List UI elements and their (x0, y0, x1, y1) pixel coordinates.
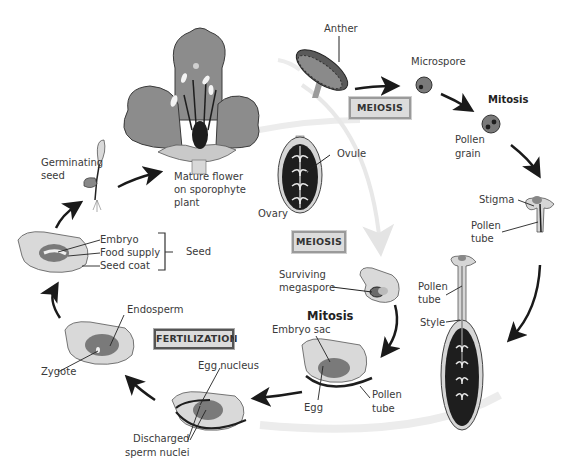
egg-nucleus-label: Egg nucleus (198, 360, 259, 372)
egg-label: Egg (304, 402, 323, 414)
ovary-label: Ovary (258, 208, 288, 220)
microspore-cell (416, 77, 432, 93)
arrow-fertilization-to-zygote (130, 380, 155, 400)
pollen-tube-label-2: Pollen tube (418, 280, 448, 306)
ovule-label: Ovule (337, 148, 366, 160)
arrow-zygote-to-seed (52, 288, 60, 318)
food-supply-label: Food supply (100, 247, 160, 259)
pollen-grain-cell (482, 115, 500, 133)
anther-label: Anther (324, 23, 358, 35)
discharged-sperm-label: Discharged sperm nuclei (125, 432, 189, 460)
arrow-germinating-to-flower (118, 173, 156, 187)
arrow-anther-to-microspore (355, 86, 393, 89)
mitosis-pollen-label: Mitosis (488, 94, 528, 106)
embryo-sac-label: Embryo sac (272, 324, 331, 336)
germinating-seed-label: Germinating seed (41, 156, 103, 182)
pollen-tube-label-1: Pollen tube (471, 219, 501, 245)
embryo-label: Embryo (100, 234, 139, 246)
anther-illustration (290, 36, 354, 98)
meiosis-female-box: MEIOSIS (292, 231, 346, 253)
seed-label: Seed (186, 246, 211, 258)
pollen-tube-label-3: Pollen tube (372, 388, 402, 416)
zygote-illustration (58, 315, 134, 372)
arrow-pollen-to-stigma (511, 145, 537, 172)
stigma-illustration (526, 196, 554, 232)
stigma-label: Stigma (479, 194, 514, 206)
mature-flower-illustration (124, 28, 259, 174)
seed-coat-label: Seed coat (100, 260, 150, 272)
meiosis-male-box: MEIOSIS (349, 97, 411, 119)
ovary-illustration (278, 136, 330, 213)
mature-flower-label: Mature flower on sporophyte plant (174, 170, 246, 209)
arrow-stigma-to-pistil (512, 265, 540, 337)
surviving-megaspore-label: Surviving megaspore (279, 268, 335, 294)
microspore-label: Microspore (411, 56, 466, 68)
surviving-megaspore-illustration (332, 268, 399, 303)
fertilization-box: FERTILIZATION (154, 329, 234, 349)
fertilization-illustration (172, 368, 246, 440)
arrow-seed-to-germinating (56, 205, 77, 228)
arrow-megaspore-to-embryo-sac (385, 305, 397, 352)
embryo-sac-illustration (302, 336, 372, 400)
pollen-grain-label: Pollen grain (455, 133, 485, 161)
endosperm-label: Endosperm (127, 304, 184, 316)
zygote-label: Zygote (41, 366, 76, 378)
arrow-microspore-to-pollen (441, 94, 468, 108)
arrow-embryo-sac-to-fertilization (258, 392, 302, 398)
style-label: Style (420, 317, 445, 329)
mitosis-embryo-label: Mitosis (307, 310, 353, 322)
